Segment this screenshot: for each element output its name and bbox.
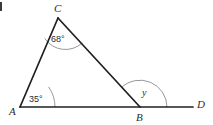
angle-label-y: y: [142, 88, 146, 98]
angle-label-a: 35°: [29, 95, 43, 104]
vertex-label-a: A: [9, 106, 16, 117]
segment-cb: [58, 18, 140, 107]
geometry-figure: A B C D 68° 35° y: [0, 0, 213, 125]
vertex-label-b: B: [136, 112, 143, 123]
angle-label-c: 68°: [51, 35, 65, 44]
vertex-label-d: D: [197, 99, 205, 110]
angle-arc-a: [49, 87, 55, 107]
figure-canvas: [0, 0, 213, 125]
vertex-label-c: C: [54, 3, 61, 14]
